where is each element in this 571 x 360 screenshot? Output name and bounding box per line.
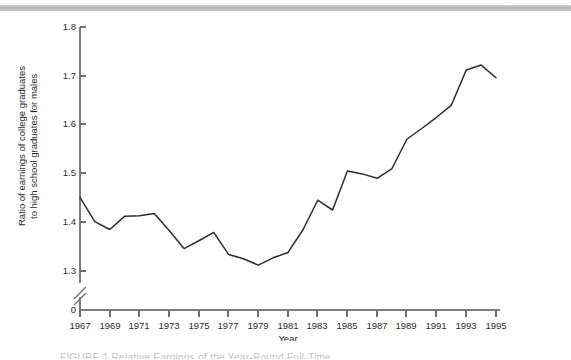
line-chart: Ratio of earnings of college graduates t… — [0, 11, 571, 341]
x-axis-ticks — [80, 310, 496, 317]
data-series-line — [80, 65, 496, 265]
y-tick-label-1-3: 1.3 — [63, 265, 76, 276]
x-tick-label-1967: 1967 — [69, 320, 90, 331]
x-tick-label-1977: 1977 — [217, 320, 238, 331]
y-axis-title-line1: Ratio of earnings of college graduates — [16, 66, 27, 226]
x-tick-label-1981: 1981 — [277, 320, 298, 331]
x-axis-tick-labels: 1967 1969 1971 1973 1975 1977 1979 1981 … — [69, 320, 506, 331]
x-tick-label-1985: 1985 — [336, 320, 357, 331]
chart-figure: Ratio of earnings of college graduates t… — [0, 11, 571, 341]
x-tick-label-1983: 1983 — [306, 320, 327, 331]
x-tick-label-1973: 1973 — [158, 320, 179, 331]
y-tick-label-1-7: 1.7 — [63, 70, 76, 81]
x-tick-label-1987: 1987 — [366, 320, 387, 331]
y-axis-title-line2: to high school graduates for males — [28, 74, 39, 219]
x-axis-title: Year — [278, 333, 297, 341]
figure-page: Ratio of earnings of college graduates t… — [0, 0, 571, 360]
x-tick-label-1979: 1979 — [247, 320, 268, 331]
x-tick-label-1971: 1971 — [128, 320, 149, 331]
figure-caption-partial: FIGURE 1 Relative Earnings of the Year-R… — [60, 352, 480, 359]
x-tick-label-1993: 1993 — [455, 320, 476, 331]
y-tick-label-1-5: 1.5 — [63, 167, 76, 178]
x-tick-label-1995: 1995 — [485, 320, 506, 331]
x-tick-label-1989: 1989 — [395, 320, 416, 331]
x-tick-label-1969: 1969 — [99, 320, 120, 331]
y-axis-ticks — [80, 27, 86, 271]
y-tick-label-1-4: 1.4 — [63, 216, 76, 227]
y-axis-title: Ratio of earnings of college graduates t… — [16, 66, 39, 226]
y-tick-label-1-6: 1.6 — [63, 118, 76, 129]
y-tick-label-zero: 0 — [71, 304, 76, 315]
y-tick-label-1-8: 1.8 — [63, 21, 76, 32]
y-axis-tick-labels: 1.8 1.7 1.6 1.5 1.4 1.3 0 — [63, 21, 76, 315]
x-tick-label-1975: 1975 — [188, 320, 209, 331]
x-tick-label-1991: 1991 — [425, 320, 446, 331]
